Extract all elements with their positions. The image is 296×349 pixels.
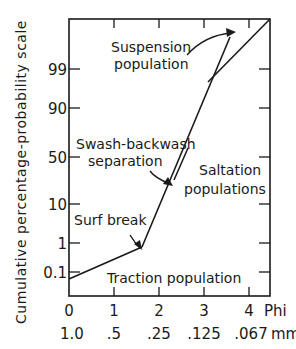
suspension-label-2: population	[114, 56, 189, 72]
grain-size-probability-diagram: Cumulative percentage-probability scale …	[0, 0, 296, 349]
x-tick-labels-phi: 0 1 2 3 4	[64, 302, 254, 320]
svg-text:1.0: 1.0	[60, 325, 84, 343]
suspension-arrow	[187, 33, 232, 55]
y-axis-title: Cumulative percentage-probability scale	[13, 20, 29, 324]
svg-text:10: 10	[48, 196, 67, 214]
svg-text:1: 1	[57, 235, 67, 253]
traction-label: Traction population	[106, 270, 241, 286]
x-axis-phi-label: Phi	[264, 302, 287, 320]
x-tick-labels-mm: 1.0 .5 .25 .125 .067	[60, 325, 268, 343]
annotation-labels: Suspension population Swash-backwash sep…	[74, 39, 266, 286]
svg-text:.25: .25	[147, 325, 171, 343]
svg-text:.5: .5	[107, 325, 121, 343]
svg-text:3: 3	[199, 302, 209, 320]
svg-text:50: 50	[48, 149, 67, 167]
svg-text:0: 0	[64, 302, 74, 320]
suspension-segment	[208, 19, 270, 82]
x-axis-mm-label: mm	[271, 325, 296, 343]
svg-text:0.1: 0.1	[43, 264, 67, 282]
svg-text:1: 1	[109, 302, 119, 320]
saltation-label-1: Saltation	[199, 162, 261, 178]
svg-text:.125: .125	[187, 325, 220, 343]
surf-break-label: Surf break	[74, 212, 147, 228]
swash-label-2: separation	[88, 153, 163, 169]
svg-text:.067: .067	[234, 325, 267, 343]
saltation-label-2: populations	[184, 181, 266, 197]
swash-label-1: Swash-backwash	[76, 136, 196, 152]
svg-text:90: 90	[48, 100, 67, 118]
svg-text:2: 2	[154, 302, 164, 320]
svg-text:99: 99	[48, 61, 67, 79]
suspension-label-1: Suspension	[111, 39, 191, 55]
svg-text:4: 4	[244, 302, 254, 320]
y-tick-labels: 99 90 50 10 1 0.1	[43, 61, 67, 282]
